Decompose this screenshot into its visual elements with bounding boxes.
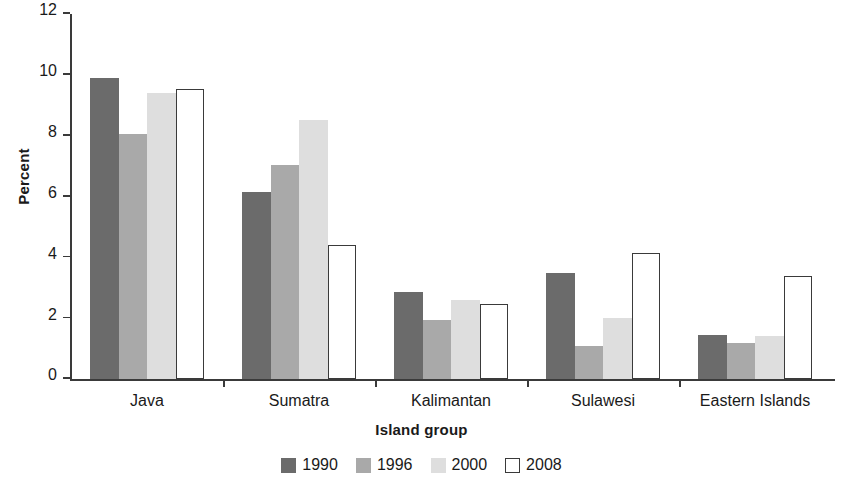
category-label: Sumatra: [219, 392, 379, 410]
legend-label: 1990: [302, 456, 338, 474]
plot-area: 024681012: [70, 14, 835, 379]
y-tick: 2: [63, 317, 70, 319]
bar: [242, 192, 271, 379]
bar: [575, 346, 604, 379]
category-label: Kalimantan: [371, 392, 531, 410]
y-tick: 6: [63, 195, 70, 197]
bar: [755, 336, 784, 379]
y-tick: 12: [63, 12, 70, 14]
y-tick: 8: [63, 134, 70, 136]
bar: [784, 276, 813, 379]
category-label: Eastern Islands: [675, 392, 835, 410]
bar: [176, 89, 205, 379]
legend-item[interactable]: 2008: [505, 456, 562, 474]
bar: [480, 304, 509, 379]
legend-swatch: [281, 458, 296, 473]
bar: [603, 318, 632, 379]
bar: [271, 165, 300, 379]
bar: [299, 120, 328, 379]
legend-swatch: [431, 458, 446, 473]
y-tick-label: 8: [48, 123, 57, 141]
bar: [727, 343, 756, 380]
category-label: Java: [67, 392, 227, 410]
y-tick: 10: [63, 73, 70, 75]
legend-label: 2000: [452, 456, 488, 474]
y-tick: 4: [63, 256, 70, 258]
y-tick-label: 0: [48, 366, 57, 384]
bar-group: [242, 14, 356, 379]
bar-chart: Percent 024681012 JavaSumatraKalimantanS…: [0, 0, 843, 486]
x-axis-title: Island group: [0, 421, 843, 438]
x-axis-line: [70, 379, 835, 381]
y-tick-label: 4: [48, 245, 57, 263]
y-axis-line: [70, 14, 72, 379]
legend-item[interactable]: 1990: [281, 456, 338, 474]
legend-item[interactable]: 2000: [431, 456, 488, 474]
legend-item[interactable]: 1996: [356, 456, 413, 474]
legend-label: 1996: [377, 456, 413, 474]
legend-swatch: [505, 458, 520, 473]
x-tick: [679, 379, 681, 387]
bar: [147, 93, 176, 379]
bar: [328, 245, 357, 379]
x-tick: [223, 379, 225, 387]
bar: [632, 253, 661, 379]
legend-swatch: [356, 458, 371, 473]
bar: [451, 300, 480, 379]
y-tick-label: 2: [48, 306, 57, 324]
y-axis-title: Percent: [15, 132, 32, 222]
x-tick: [527, 379, 529, 387]
y-tick-label: 12: [39, 1, 57, 19]
bar-group: [394, 14, 508, 379]
x-tick: [375, 379, 377, 387]
chart-legend: 1990199620002008: [0, 456, 843, 474]
category-label: Sulawesi: [523, 392, 683, 410]
bar: [546, 273, 575, 379]
bar: [423, 320, 452, 379]
bar-group: [546, 14, 660, 379]
y-tick-label: 10: [39, 62, 57, 80]
legend-label: 2008: [526, 456, 562, 474]
bar: [119, 134, 148, 379]
y-tick-label: 6: [48, 184, 57, 202]
bar: [90, 78, 119, 379]
bar: [394, 292, 423, 379]
bar: [698, 335, 727, 379]
y-tick: 0: [63, 377, 70, 379]
bar-group: [698, 14, 812, 379]
bar-group: [90, 14, 204, 379]
